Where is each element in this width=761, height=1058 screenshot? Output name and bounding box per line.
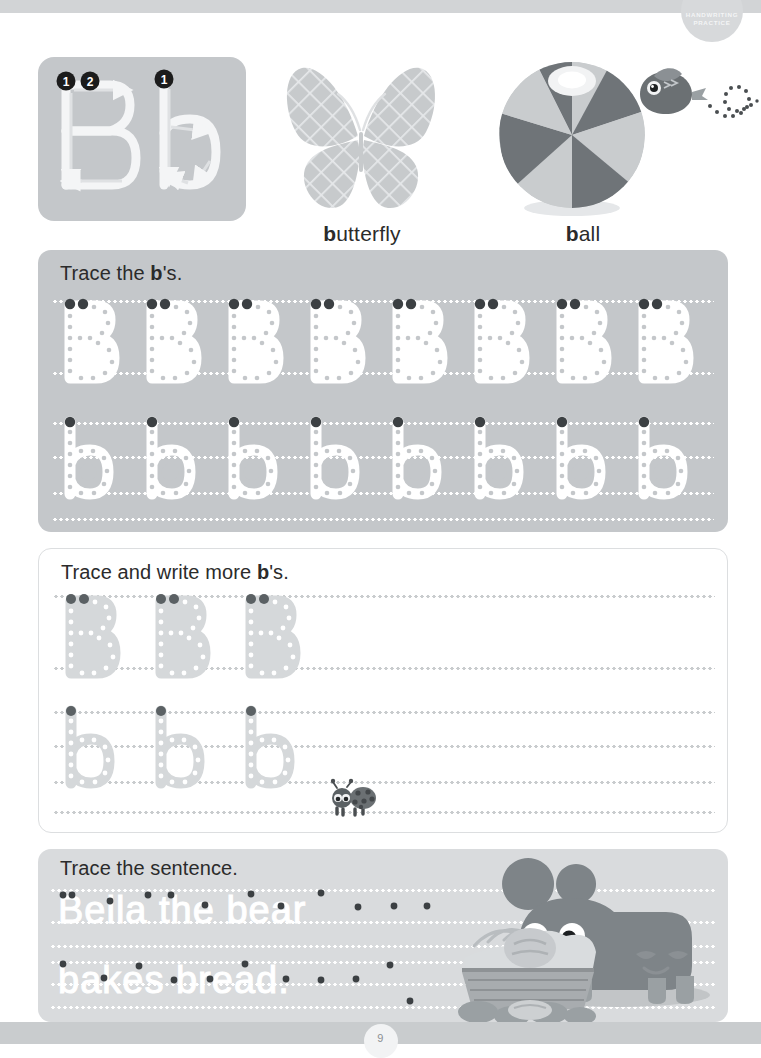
row-lowercase-b — [65, 417, 684, 496]
bear-with-bread-illustration — [458, 840, 728, 1025]
ball-illustration — [498, 53, 646, 225]
svg-text:1: 1 — [161, 73, 168, 87]
top-rail — [0, 0, 761, 13]
word-bold-butterfly: b — [323, 222, 336, 245]
word-label-butterfly: butterfly — [262, 222, 462, 246]
row-lowercase-b-practice — [66, 706, 290, 784]
bird-illustration — [630, 62, 761, 138]
model-upper-B — [66, 85, 136, 185]
letter-formation-guide: 1 2 1 — [38, 57, 246, 221]
handwriting-practice-badge: HANDWRITING PRACTICE — [681, 0, 743, 42]
page-number: 9 — [377, 1032, 384, 1044]
section-trace-write-more[interactable]: Trace and write more b's. — [38, 548, 728, 833]
section-trace-b: Trace the b's. — [38, 250, 728, 532]
butterfly-illustration — [276, 58, 446, 224]
word-rest-ball: all — [579, 222, 601, 245]
bottom-rail: 9 — [0, 1022, 761, 1044]
ladybug-illustration — [331, 779, 376, 815]
badge-line-1: HANDWRITING — [686, 11, 738, 19]
section-1-trace-letters — [38, 250, 728, 532]
section-3-title: Trace the sentence. — [60, 857, 238, 880]
word-rest-butterfly: utterfly — [336, 222, 401, 245]
section-2-trace-letters — [39, 549, 729, 834]
svg-text:1: 1 — [63, 75, 70, 89]
section-trace-sentence[interactable]: Trace the sentence. Bella the bear bakes… — [38, 849, 728, 1022]
svg-text:2: 2 — [87, 75, 94, 89]
sentence-line-1: Bella the bear — [58, 891, 307, 929]
letter-model-svg: 1 2 1 — [38, 57, 246, 221]
bread-basket — [458, 928, 596, 1025]
stroke-number-1-lower: 1 — [155, 70, 174, 89]
row-uppercase-B-practice — [66, 594, 295, 675]
stroke-number-1-upper: 1 — [57, 72, 76, 91]
model-lower-b — [164, 81, 216, 185]
stroke-number-2-upper: 2 — [81, 72, 100, 91]
word-label-ball: ball — [483, 222, 683, 246]
word-bold-ball: b — [566, 222, 579, 245]
row-uppercase-B — [65, 299, 689, 381]
sentence-line-2: bakes bread. — [58, 961, 290, 999]
section-3-title-text: Trace the sentence. — [60, 857, 238, 879]
badge-line-2: PRACTICE — [693, 19, 730, 27]
